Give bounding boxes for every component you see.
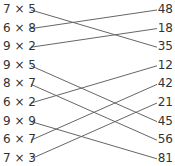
answer-item[interactable]: 18 bbox=[158, 21, 173, 35]
answer-item[interactable]: 42 bbox=[158, 76, 173, 90]
expression-item[interactable]: 8 × 7 bbox=[3, 76, 36, 90]
answer-item[interactable]: 48 bbox=[158, 2, 173, 16]
expression-item[interactable]: 9 × 2 bbox=[3, 39, 36, 53]
answer-item[interactable]: 35 bbox=[158, 39, 173, 53]
answer-item[interactable]: 21 bbox=[158, 95, 173, 109]
expression-item[interactable]: 9 × 5 bbox=[3, 58, 36, 72]
answer-item[interactable]: 12 bbox=[158, 58, 173, 72]
answer-item[interactable]: 45 bbox=[158, 114, 173, 128]
connector-line bbox=[31, 29, 157, 48]
connector-line bbox=[31, 10, 157, 29]
connector-line bbox=[31, 103, 157, 159]
expression-item[interactable]: 7 × 3 bbox=[3, 151, 36, 165]
connector-line bbox=[31, 66, 157, 122]
answer-item[interactable]: 56 bbox=[158, 132, 173, 146]
connector-line bbox=[31, 122, 157, 159]
answer-item[interactable]: 81 bbox=[158, 151, 173, 165]
expression-item[interactable]: 7 × 5 bbox=[3, 2, 36, 16]
expression-item[interactable]: 6 × 7 bbox=[3, 132, 36, 146]
expression-item[interactable]: 6 × 2 bbox=[3, 95, 36, 109]
connector-line bbox=[31, 66, 157, 103]
connector-line bbox=[31, 10, 157, 47]
expression-item[interactable]: 9 × 9 bbox=[3, 114, 36, 128]
expression-item[interactable]: 6 × 8 bbox=[3, 21, 36, 35]
